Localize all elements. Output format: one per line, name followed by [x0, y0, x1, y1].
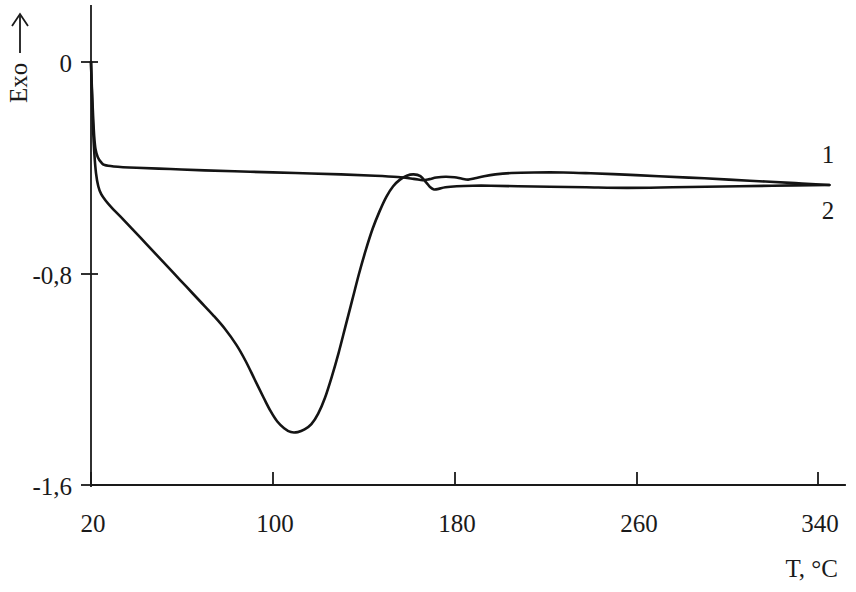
x-tick-label-1: 100	[256, 510, 294, 537]
x-axis-ticks	[91, 472, 818, 485]
x-tick-label-4: 340	[801, 510, 839, 537]
up-arrow-icon	[12, 14, 28, 53]
y-tick-label-0: 0	[60, 50, 73, 77]
x-tick-label-3: 260	[620, 510, 658, 537]
x-tick-label-2: 180	[438, 510, 476, 537]
y-tick-label-1: -0,8	[32, 262, 72, 289]
y-tick-label-2: -1,6	[32, 473, 72, 500]
curve-2	[91, 62, 829, 433]
curve-1-label: 1	[822, 141, 835, 168]
y-axis-ticks	[81, 62, 98, 485]
x-axis-title: T, °C	[785, 555, 838, 582]
x-tick-label-0: 20	[81, 510, 106, 537]
chart-canvas: 0 -0,8 -1,6 20 100 180 260 340 T, °C Exo…	[0, 0, 856, 592]
y-axis-title: Exo	[5, 63, 32, 103]
curve-2-label: 2	[822, 197, 835, 224]
dsc-thermogram-figure: 0 -0,8 -1,6 20 100 180 260 340 T, °C Exo…	[0, 0, 856, 592]
curve-1	[91, 62, 829, 185]
